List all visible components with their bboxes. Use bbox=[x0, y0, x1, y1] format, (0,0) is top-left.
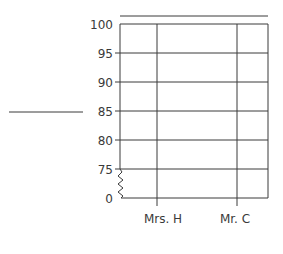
bar-chart: 100 95 90 85 80 75 0 Mrs. H Mr. C bbox=[0, 0, 283, 254]
y-axis-ticks: 100 95 90 85 80 75 0 bbox=[90, 18, 113, 206]
ytick-80: 80 bbox=[98, 134, 113, 148]
ytick-0: 0 bbox=[105, 192, 113, 206]
x-axis-labels: Mrs. H Mr. C bbox=[144, 212, 250, 226]
ytick-95: 95 bbox=[98, 47, 113, 61]
axis-break-icon bbox=[118, 169, 123, 198]
ytick-90: 90 bbox=[98, 76, 113, 90]
plot-area bbox=[115, 24, 268, 206]
ytick-100: 100 bbox=[90, 18, 113, 32]
ytick-85: 85 bbox=[98, 105, 113, 119]
ytick-75: 75 bbox=[98, 163, 113, 177]
category-label-mr-c: Mr. C bbox=[220, 212, 250, 226]
category-label-mrs-h: Mrs. H bbox=[144, 212, 182, 226]
